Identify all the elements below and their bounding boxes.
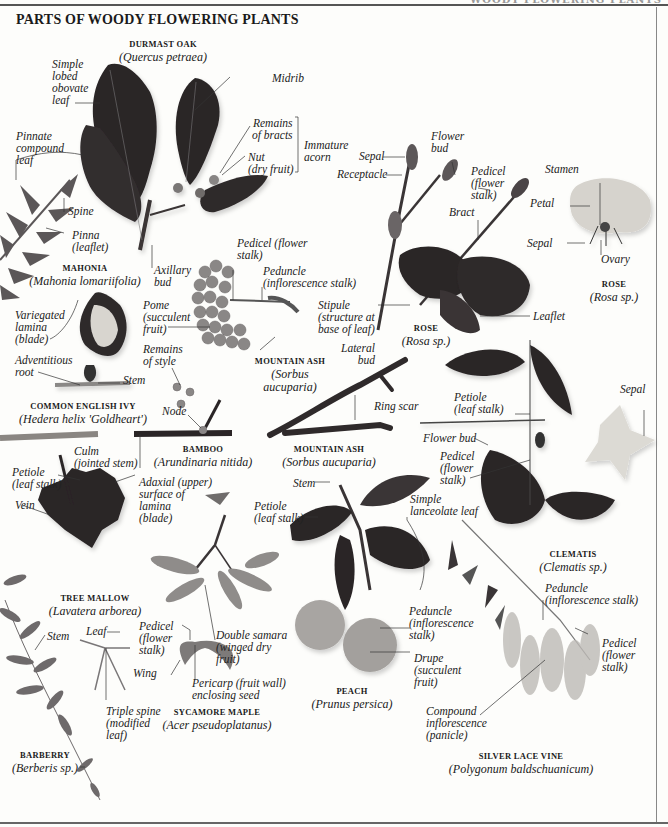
label-barberry-triple-spine: Triple spine (modified leaf) — [106, 705, 161, 741]
label-oak-immature-acorn: Immature acorn — [304, 139, 348, 163]
label-ash-remains-style: Remains of style — [143, 343, 183, 367]
caption-mahonia: MAHONIA (Mahonia lomariifolia) — [29, 262, 141, 288]
label-rose-pedicel: Pedicel (flower stalk) — [471, 165, 505, 201]
caption-bamboo: BAMBOO (Arundinaria nitida) — [154, 443, 252, 469]
oak-specimen — [80, 64, 268, 250]
label-peach-stem: Stem — [293, 477, 315, 489]
caption-mountain-ash-fruit: MOUNTAIN ASH (Sorbus aucuparia) — [255, 355, 325, 394]
caption-common-english-ivy: COMMON ENGLISH IVY (Hedera helix 'Goldhe… — [19, 400, 147, 426]
label-roseflower-ovary: Ovary — [601, 253, 630, 265]
label-rose-flower-bud: Flower bud — [431, 130, 464, 154]
rose-flower-specimen — [570, 178, 651, 246]
label-ivy-adventitious: Adventitious root — [15, 354, 73, 378]
label-ash-pome: Pome (succulent fruit) — [143, 299, 190, 335]
caption-rose-shoot: ROSE (Rosa sp.) — [402, 322, 451, 348]
peach-specimen — [290, 475, 430, 672]
label-peach-petiole: Petiole (leaf stalk) — [254, 500, 304, 524]
label-roseflower-stamen: Stamen — [545, 163, 579, 175]
label-maple-double-samara: Double samara (winged dry fruit) — [216, 629, 287, 665]
caption-silver-lace-vine: SILVER LACE VINE (Polygonum baldschuanic… — [449, 750, 593, 776]
label-barberry-stem: Stem — [47, 630, 69, 642]
caption-peach: PEACH (Prunus persica) — [312, 685, 393, 711]
label-bamboo-culm: Culm (jointed stem) — [74, 445, 138, 469]
label-peach-drupe: Drupe (succulent fruit) — [414, 652, 461, 688]
label-rose-sepal: Sepal — [359, 150, 385, 162]
label-clem-sepal: Sepal — [620, 383, 646, 395]
label-ash-peduncle: Peduncle (inflorescence stalk) — [263, 265, 356, 289]
label-bamboo-node: Node — [162, 405, 186, 417]
label-rose-stipule: Stipule (structure at base of leaf) — [318, 299, 375, 335]
label-barberry-leaf: Leaf — [86, 625, 106, 637]
caption-barberry: BARBERRY (Berberis sp.) — [12, 749, 78, 775]
label-roseflower-petal: Petal — [530, 197, 554, 209]
label-roseflower-sepal: Sepal — [527, 237, 553, 249]
label-clem-petiole: Petiole (leaf stalk) — [454, 391, 504, 415]
label-twig-ring-scar: Ring scar — [374, 400, 418, 412]
label-mallow-petiole: Petiole (leaf stalk) — [12, 466, 62, 490]
label-oak-axillary-bud: Axillary bud — [154, 264, 191, 288]
label-rose-bract: Bract — [449, 206, 475, 218]
caption-durmast-oak: DURMAST OAK (Quercus petraea) — [119, 38, 207, 64]
label-ivy-stem: Stem — [123, 374, 145, 386]
label-twig-lateral-bud: Lateral bud — [341, 342, 375, 366]
label-rose-receptacle: Receptacle — [337, 168, 387, 180]
label-maple-pedicel: Pedicel (flower stalk) — [139, 620, 173, 656]
caption-clematis: CLEMATIS (Clematis sp.) — [539, 548, 606, 574]
label-clem-flower-bud: Flower bud — [423, 432, 476, 444]
caption-tree-mallow: TREE MALLOW (Lavatera arborea) — [49, 592, 142, 618]
caption-rose-flower: ROSE (Rosa sp.) — [590, 278, 639, 304]
label-rose-leaflet: Leaflet — [533, 310, 565, 322]
label-mallow-vein: Vein — [15, 499, 35, 511]
label-oak-remains-bracts: Remains of bracts — [252, 117, 293, 141]
label-vine-pedicel: Pedicel (flower stalk) — [602, 637, 636, 673]
label-oak-simple-leaf: Simple lobed obovate leaf — [52, 58, 88, 106]
label-ash-pedicel: Pedicel (flower stalk) — [237, 237, 308, 261]
label-vine-peduncle: Peduncle (inflorescence stalk) — [545, 582, 638, 606]
label-maple-pericarp: Pericarp (fruit wall) enclosing seed — [192, 677, 286, 701]
label-peach-peduncle: Peduncle (inflorescence stalk) — [409, 605, 474, 641]
label-clem-pedicel: Pedicel (flower stalk) — [440, 450, 474, 486]
label-maple-wing: Wing — [133, 667, 157, 679]
label-mahonia-pinna: Pinna (leaflet) — [72, 229, 108, 253]
label-oak-midrib: Midrib — [272, 72, 304, 84]
label-vine-compound: Compound inflorescence (panicle) — [426, 705, 487, 741]
label-ivy-variegated: Variegated lamina (blade) — [15, 309, 65, 345]
label-mallow-adaxial: Adaxial (upper) surface of lamina (blade… — [139, 476, 212, 524]
label-peach-simple-leaf: Simple lanceolate leaf — [410, 493, 478, 517]
label-mahonia-pinnate: Pinnate compound leaf — [16, 130, 64, 166]
caption-mountain-ash-twig: MOUNTAIN ASH (Sorbus aucuparia) — [282, 443, 376, 469]
label-mahonia-spine: Spine — [68, 205, 94, 217]
caption-sycamore-maple: SYCAMORE MAPLE (Acer pseudoplatanus) — [163, 706, 272, 732]
label-oak-nut: Nut (dry fruit) — [248, 151, 294, 175]
